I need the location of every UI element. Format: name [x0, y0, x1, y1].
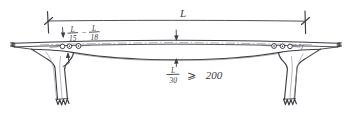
break-line-right [337, 43, 342, 47]
pier-right-shading-1 [290, 57, 292, 98]
pier-right-inner-face [279, 53, 288, 99]
midspan-depth-indicator [174, 30, 179, 67]
deck-cantilever-left-underside [15, 47, 32, 49]
span-length-label: L [179, 7, 186, 19]
break-line-left [11, 43, 16, 47]
dimension-tick-right [305, 11, 306, 34]
pier-right [279, 49, 321, 105]
sketch-canvas: L L 15 – L 18 [0, 0, 352, 123]
midspan-depth-numerator: L [170, 66, 175, 75]
duct-right-3 [288, 44, 293, 49]
girder-soffit-line [32, 49, 321, 60]
duct-right-2-core [282, 45, 284, 47]
pier-depth-arrowhead [61, 32, 66, 38]
pier-depth-separator: – [81, 27, 86, 36]
pier-left-outer-face [32, 49, 58, 99]
midspan-depth-value: 200 [206, 69, 223, 81]
midspan-depth-label: L 30 ⩾ 200 [167, 66, 223, 85]
pier-left-break-cap [56, 99, 68, 100]
pier-depth-arrow-leader [63, 63, 69, 67]
pier-depth-denominator-2: 18 [91, 33, 99, 42]
pier-depth-numerator-2: L [91, 24, 96, 33]
midspan-depth-denominator: 30 [168, 76, 177, 85]
pier-depth-numerator-1: L [69, 25, 74, 34]
bridge-elevation-sketch: L L 15 – L 18 [0, 0, 352, 123]
pier-right-outer-face [295, 49, 321, 99]
midspan-depth-relation: ⩾ [187, 69, 196, 81]
tendon-path-right-tail [293, 47, 300, 48]
duct-left-1 [60, 44, 65, 49]
duct-left-3-core [78, 45, 80, 47]
pier-right-break-cap [284, 99, 295, 100]
tendon-path-left-lead [50, 47, 59, 48]
pier-right-break-hatch [284, 99, 297, 105]
pier-depth-indicator-arrow [63, 52, 70, 66]
duct-left-2-core [69, 45, 71, 47]
pier-depth-label: L 15 – L 18 [61, 24, 100, 43]
dimension-line-bar [48, 20, 305, 21]
deck-cantilever-right-underside [321, 47, 338, 49]
pier-left-break-hatch [56, 99, 69, 105]
pier-left-shading-2 [60, 57, 62, 98]
pier-depth-arrow-up-head [66, 52, 71, 58]
duct-right-1-core [273, 45, 275, 47]
